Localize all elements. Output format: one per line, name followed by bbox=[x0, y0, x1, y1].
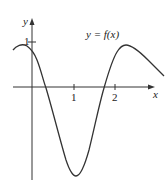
x-axis-label: x bbox=[153, 89, 158, 100]
y-axis-label: y bbox=[23, 16, 28, 27]
curve-label: y = f(x) bbox=[86, 29, 119, 40]
function-graph: y 1 y = f(x) 1 2 x bbox=[0, 0, 167, 189]
y-tick-label-1: 1 bbox=[24, 36, 30, 47]
graph-svg bbox=[0, 0, 167, 189]
x-tick-label-1: 1 bbox=[71, 92, 77, 103]
x-tick-label-2: 2 bbox=[112, 92, 118, 103]
curve-f-of-x bbox=[13, 45, 164, 176]
y-axis-arrow-icon bbox=[30, 18, 35, 25]
